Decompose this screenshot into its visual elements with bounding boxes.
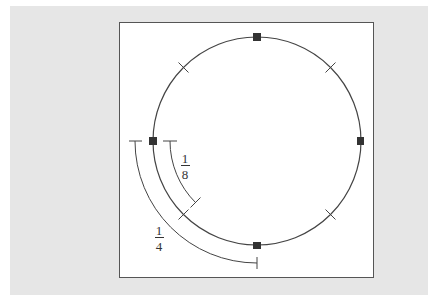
marker-top [253, 33, 261, 41]
label-one-quarter-numerator: 1 [152, 224, 166, 236]
label-one-quarter-denominator: 4 [152, 240, 166, 252]
label-one-eighth: 1 8 [178, 152, 192, 180]
label-one-quarter: 1 4 [152, 224, 166, 252]
label-one-eighth-denominator: 8 [178, 168, 192, 180]
marker-bottom [253, 242, 261, 249]
page: 1 8 1 4 [0, 0, 428, 307]
marker-left [149, 137, 157, 145]
label-one-eighth-numerator: 1 [178, 152, 192, 164]
eighth-ticks [179, 63, 336, 220]
circle-diagram [0, 0, 428, 307]
marker-right [357, 137, 364, 145]
